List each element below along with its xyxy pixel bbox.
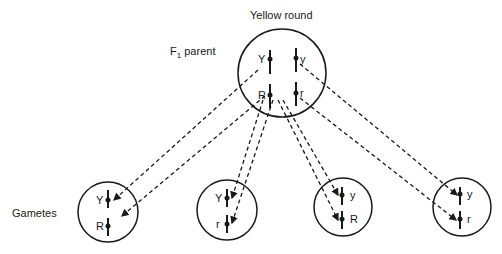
allele-R: R	[258, 90, 266, 101]
allele-Y: Y	[258, 54, 265, 65]
meiosis-diagram	[0, 0, 502, 254]
gamete-cell-3	[314, 178, 372, 236]
diagram-title: Yellow round	[250, 9, 313, 21]
gamete-3-bottom-allele: R	[350, 214, 358, 225]
gamete-1-bottom-allele: R	[96, 221, 104, 232]
gamete-cell-1	[78, 182, 138, 242]
gamete-4-top-allele: y	[467, 189, 473, 200]
gamete-2-bottom-allele: r	[216, 219, 220, 230]
parent-label: F1 parent	[170, 45, 215, 60]
allele-y: y	[300, 54, 306, 65]
gamete-3-top-allele: y	[350, 190, 356, 201]
gametes-label: Gametes	[12, 207, 57, 219]
gamete-1-top-allele: Y	[96, 195, 103, 206]
gamete-2-top-allele: Y	[215, 193, 222, 204]
parent-cell	[238, 29, 326, 117]
allele-r: r	[300, 88, 304, 99]
gamete-4-bottom-allele: r	[467, 214, 471, 225]
gamete-cell-4	[433, 178, 491, 236]
segregation-arrows	[114, 64, 457, 223]
gamete-cell-2	[197, 180, 257, 240]
